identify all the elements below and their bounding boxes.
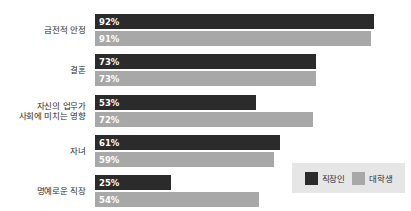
bar[interactable]: 92%: [95, 14, 398, 29]
bar-fill: [95, 71, 316, 86]
category-label-line: 자신의 업무가: [0, 101, 86, 112]
bar-fill: [95, 192, 259, 207]
category-label: 자녀: [0, 146, 86, 157]
bar-value-label: 72%: [99, 115, 119, 124]
bar[interactable]: 61%: [95, 135, 398, 150]
bar-value-label: 73%: [99, 57, 119, 66]
bar[interactable]: 54%: [95, 192, 398, 207]
bar-chart: 금전적 안정92%91%결혼73%73%자신의 업무가사회에 미치는 영향53%…: [0, 0, 411, 211]
category-label: 결혼: [0, 65, 86, 76]
bar-pair: 92%91%: [95, 14, 398, 46]
legend-swatch-icon-0: [305, 172, 318, 185]
chart-legend: 직장인 대학생: [292, 163, 405, 193]
bar-value-label: 92%: [99, 17, 119, 26]
legend-swatch-icon-1: [352, 172, 365, 185]
bar-fill: [95, 112, 313, 127]
legend-item-1[interactable]: 대학생: [352, 172, 392, 185]
category-label-line: 금전적 안정: [0, 25, 86, 36]
bar-value-label: 91%: [99, 34, 119, 43]
category-label-line: 자녀: [0, 146, 86, 157]
category-label: 명예로운 직장: [0, 186, 86, 197]
bar-fill: [95, 54, 316, 69]
bar[interactable]: 73%: [95, 71, 398, 86]
category-label-line: 결혼: [0, 65, 86, 76]
legend-label-0: 직장인: [322, 172, 345, 184]
bar-value-label: 61%: [99, 138, 119, 147]
bar[interactable]: 91%: [95, 31, 398, 46]
bar[interactable]: 72%: [95, 112, 398, 127]
bar-value-label: 25%: [99, 178, 119, 187]
category-label-line: 사회에 미치는 영향: [0, 111, 86, 122]
category-label: 금전적 안정: [0, 25, 86, 36]
category-label-line: 명예로운 직장: [0, 186, 86, 197]
bar-pair: 53%72%: [95, 95, 398, 127]
legend-item-0[interactable]: 직장인: [305, 172, 345, 185]
bar-value-label: 53%: [99, 98, 119, 107]
bar-pair: 73%73%: [95, 54, 398, 86]
bar-fill: [95, 135, 280, 150]
bar[interactable]: 73%: [95, 54, 398, 69]
bar-value-label: 73%: [99, 74, 119, 83]
category-label: 자신의 업무가사회에 미치는 영향: [0, 101, 86, 122]
bar[interactable]: 53%: [95, 95, 398, 110]
bar-fill: [95, 31, 371, 46]
bar-fill: [95, 152, 274, 167]
bar-fill: [95, 14, 374, 29]
bar-value-label: 54%: [99, 195, 119, 204]
bar-value-label: 59%: [99, 155, 119, 164]
legend-label-1: 대학생: [369, 172, 392, 184]
